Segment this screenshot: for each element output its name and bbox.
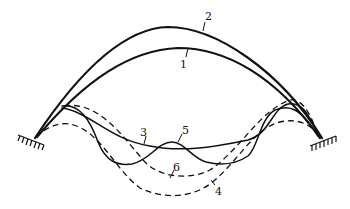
label-curve-4: 4 bbox=[215, 185, 222, 198]
curve-3 bbox=[62, 104, 318, 149]
arch-buckling-diagram: 2 1 3 5 6 4 bbox=[0, 0, 350, 209]
curve-1 bbox=[37, 48, 320, 138]
curve-5 bbox=[62, 106, 318, 165]
curve-2 bbox=[35, 27, 322, 138]
label-curve-1: 1 bbox=[180, 58, 187, 71]
label-curve-5: 5 bbox=[182, 124, 189, 137]
curve-4 bbox=[36, 121, 320, 196]
label-curve-6: 6 bbox=[173, 161, 180, 174]
curve-6 bbox=[64, 100, 318, 176]
left-fixed-support-icon bbox=[18, 135, 44, 150]
label-curve-3: 3 bbox=[140, 126, 147, 139]
label-curve-2: 2 bbox=[205, 10, 212, 23]
